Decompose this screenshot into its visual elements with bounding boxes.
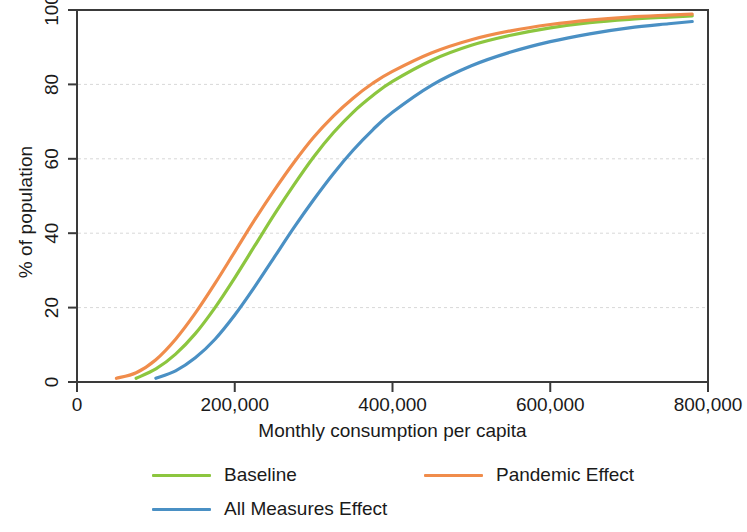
x-tick-label: 200,000 bbox=[155, 394, 315, 420]
x-tick-label: 600,000 bbox=[470, 394, 630, 420]
plot-area bbox=[0, 0, 737, 460]
x-tick-label: 400,000 bbox=[313, 394, 473, 420]
series-line bbox=[136, 16, 692, 378]
legend-item-pandemic-effect[interactable]: Pandemic Effect bbox=[424, 462, 634, 488]
x-axis-title: Monthly consumption per capita bbox=[77, 420, 708, 442]
legend-item-label: Baseline bbox=[224, 464, 297, 486]
legend-color-swatch bbox=[424, 474, 483, 477]
chart-legend: Baseline Pandemic Effect All Measures Ef… bbox=[0, 462, 737, 532]
legend-item-baseline[interactable]: Baseline bbox=[152, 462, 297, 488]
x-tick-label: 800,000 bbox=[628, 394, 747, 420]
series-line bbox=[156, 22, 692, 379]
x-tick-label: 0 bbox=[0, 394, 157, 420]
legend-color-swatch bbox=[152, 508, 211, 511]
plot-frame bbox=[77, 10, 708, 382]
legend-color-swatch bbox=[152, 474, 211, 477]
legend-item-all-measures-effect[interactable]: All Measures Effect bbox=[152, 496, 387, 522]
legend-item-label: All Measures Effect bbox=[224, 498, 387, 520]
legend-item-label: Pandemic Effect bbox=[496, 464, 634, 486]
